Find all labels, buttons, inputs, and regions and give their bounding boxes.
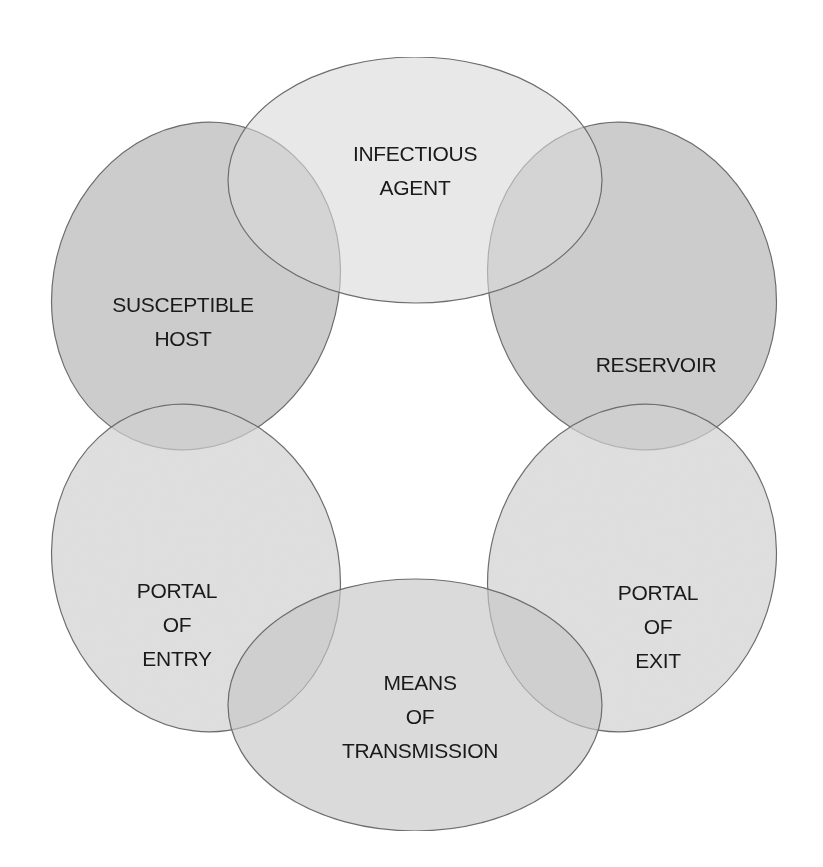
portal-of-exit-label: PORTAL OF EXIT [618,576,698,678]
label-line: ENTRY [137,642,217,676]
label-line: OF [137,608,217,642]
label-line: TRANSMISSION [342,734,498,768]
label-line: HOST [112,322,253,356]
label-line: SUSCEPTIBLE [112,288,253,322]
label-line: MEANS [342,666,498,700]
infectious-agent-label: INFECTIOUS AGENT [353,137,477,205]
means-of-transmission-label: MEANS OF TRANSMISSION [342,666,498,768]
label-line: OF [342,700,498,734]
label-line: PORTAL [618,576,698,610]
label-line: AGENT [353,171,477,205]
susceptible-host-label: SUSCEPTIBLE HOST [112,288,253,356]
label-line: INFECTIOUS [353,137,477,171]
label-line: OF [618,610,698,644]
reservoir-label: RESERVOIR [596,348,717,382]
chain-of-infection-diagram: INFECTIOUS AGENT RESERVOIR PORTAL OF EXI… [0,0,823,867]
label-line: EXIT [618,644,698,678]
label-line: PORTAL [137,574,217,608]
portal-of-entry-label: PORTAL OF ENTRY [137,574,217,676]
label-line: RESERVOIR [596,348,717,382]
